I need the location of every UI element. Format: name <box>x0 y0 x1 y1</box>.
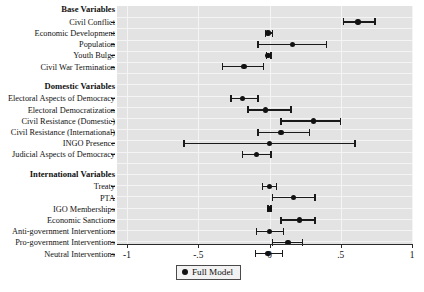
group-header-label: Domestic Variables <box>45 81 115 92</box>
ci-cap-lower <box>242 151 243 158</box>
y-axis-tick <box>111 154 115 155</box>
coefficient-row: Pro-government Interventions <box>0 237 424 248</box>
ci-cap-lower <box>257 129 258 136</box>
legend: Full Model <box>176 265 241 280</box>
ci-cap-upper <box>326 41 327 48</box>
y-axis-tick <box>111 22 115 23</box>
point-estimate-marker <box>265 53 270 58</box>
row-label: Electoral Democratization <box>28 105 115 116</box>
row-label: Civil Resistance (Domestic) <box>21 116 115 127</box>
group-header-row: Domestic Variables <box>0 81 424 92</box>
coefficient-row: IGO Memberships <box>0 204 424 215</box>
x-axis-tick <box>198 244 199 248</box>
y-axis-tick <box>111 132 115 133</box>
point-estimate-marker <box>311 118 316 123</box>
y-axis-tick <box>111 121 115 122</box>
y-axis-tick <box>111 33 115 34</box>
x-axis-tick <box>127 244 128 248</box>
point-estimate-marker <box>297 217 302 222</box>
row-label: Civil Conflict <box>69 17 115 28</box>
y-axis-tick <box>111 67 115 68</box>
y-axis-tick <box>111 186 115 187</box>
confidence-interval-bar <box>248 109 291 110</box>
point-estimate-marker <box>267 184 272 189</box>
y-axis-tick <box>111 242 115 243</box>
ci-cap-lower <box>280 217 281 224</box>
legend-marker-icon <box>182 269 188 275</box>
ci-cap-lower <box>256 228 257 235</box>
row-label: INGO Presence <box>63 138 115 149</box>
point-estimate-marker <box>267 229 272 234</box>
row-label: Population <box>79 39 115 50</box>
chart-root: Base VariablesCivil ConflictEconomic Dev… <box>0 0 424 292</box>
ci-cap-upper <box>272 30 273 37</box>
gridline-horizontal <box>117 73 413 74</box>
y-axis-tick <box>111 198 115 199</box>
ci-cap-lower <box>230 95 231 102</box>
ci-cap-upper <box>270 151 271 158</box>
coefficient-row: Treaty <box>0 181 424 192</box>
point-estimate-marker <box>240 96 245 101</box>
x-axis-tick <box>341 244 342 248</box>
ci-cap-lower <box>247 106 248 113</box>
legend-label: Full Model <box>192 267 233 277</box>
ci-cap-upper <box>290 106 291 113</box>
ci-cap-upper <box>282 250 283 257</box>
ci-cap-lower <box>183 140 184 147</box>
group-header-row: International Variables <box>0 169 424 180</box>
coefficient-row: Neutral Interventions <box>0 249 424 260</box>
ci-cap-upper <box>374 18 375 25</box>
ci-cap-lower <box>257 41 258 48</box>
point-estimate-marker <box>278 130 283 135</box>
ci-cap-upper <box>283 228 284 235</box>
row-label: Pro-government Interventions <box>15 237 115 248</box>
x-axis-tick-label: .5 <box>337 250 344 260</box>
x-axis-tick-label: 0 <box>267 250 272 260</box>
group-header-label: International Variables <box>30 169 115 180</box>
point-estimate-marker <box>254 152 259 157</box>
y-axis-tick <box>111 44 115 45</box>
ci-cap-lower <box>255 250 256 257</box>
row-label: Neutral Interventions <box>44 249 115 260</box>
y-axis-tick <box>111 55 115 56</box>
row-label: Electoral Aspects of Democracy <box>8 93 115 104</box>
row-label: IGO Memberships <box>53 204 115 215</box>
ci-cap-upper <box>314 194 315 201</box>
ci-cap-upper <box>257 95 258 102</box>
coefficient-row: Youth Bulge <box>0 50 424 61</box>
coefficient-row: Electoral Aspects of Democracy <box>0 93 424 104</box>
confidence-interval-bar <box>258 132 309 133</box>
ci-cap-lower <box>262 183 263 190</box>
ci-cap-lower <box>222 63 223 70</box>
ci-cap-upper <box>340 118 341 125</box>
x-axis-tick-label: 1 <box>410 250 415 260</box>
coefficient-row: INGO Presence <box>0 138 424 149</box>
coefficient-row: Economic Sanctions <box>0 215 424 226</box>
row-label: Economic Development <box>35 28 115 39</box>
ci-cap-lower <box>343 18 344 25</box>
coefficient-row: Civil Resistance (International) <box>0 127 424 138</box>
coefficient-row: Civil War Termination <box>0 62 424 73</box>
row-label: Civil Resistance (International) <box>11 127 115 138</box>
point-estimate-marker <box>267 141 272 146</box>
y-axis-tick <box>111 98 115 99</box>
ci-cap-upper <box>276 183 277 190</box>
ci-cap-upper <box>263 63 264 70</box>
coefficient-row: Anti-government Interventions <box>0 226 424 237</box>
point-estimate-marker <box>267 206 272 211</box>
x-axis-tick-label: -1 <box>123 250 131 260</box>
ci-cap-lower <box>272 194 273 201</box>
x-axis-tick-label: -.5 <box>193 250 203 260</box>
row-label: Judicial Aspects of Democracy <box>12 149 115 160</box>
coefficient-row: Judicial Aspects of Democracy <box>0 149 424 160</box>
y-axis-tick <box>111 110 115 111</box>
x-axis-tick <box>270 244 271 248</box>
point-estimate-marker <box>355 19 360 24</box>
coefficient-row: Economic Development <box>0 28 424 39</box>
ci-cap-upper <box>314 217 315 224</box>
ci-cap-lower <box>280 118 281 125</box>
ci-cap-upper <box>354 140 355 147</box>
x-axis-tick <box>412 244 413 248</box>
gridline-horizontal <box>117 163 413 164</box>
group-header-label: Base Variables <box>61 4 115 15</box>
